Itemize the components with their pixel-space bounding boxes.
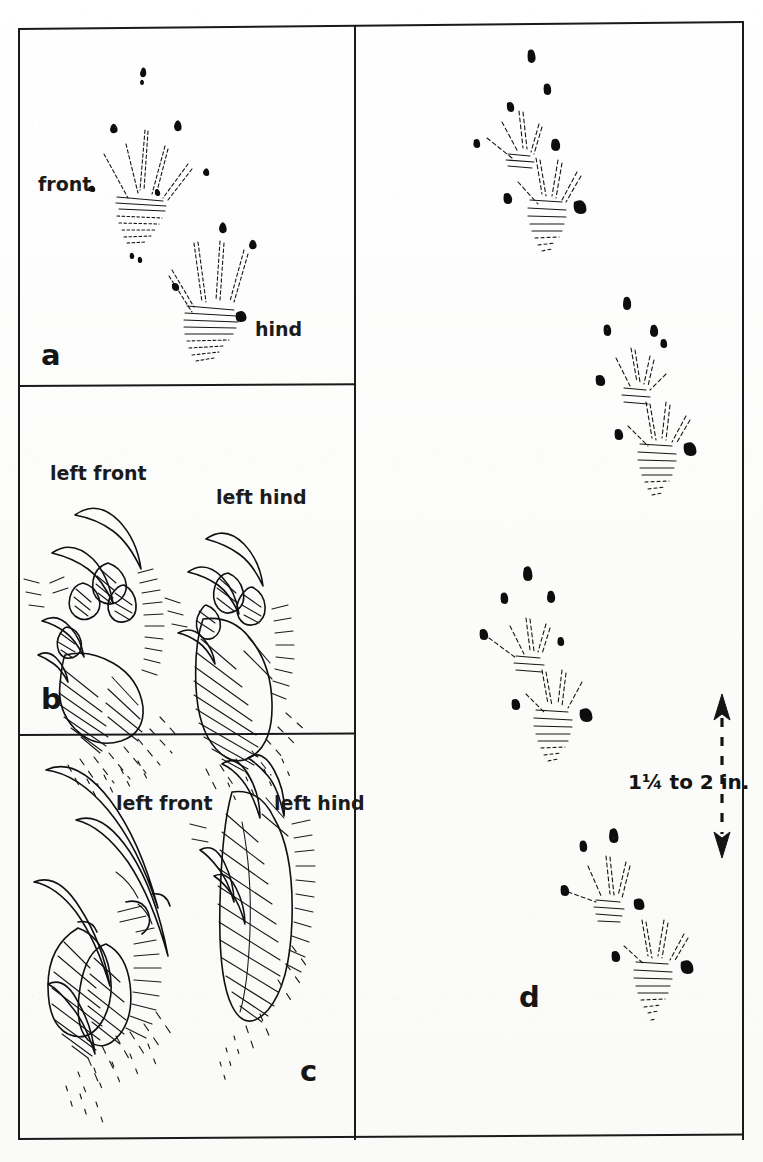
- track-front-2: [596, 297, 668, 404]
- panel-label-c: c: [300, 1054, 317, 1088]
- track-hind-3: [512, 670, 593, 761]
- panel-a: front hind a: [20, 30, 354, 385]
- panel-label-d: d: [519, 980, 540, 1014]
- panel-b: left front left hind b: [20, 387, 354, 734]
- track-label-hind: hind: [255, 318, 302, 340]
- paw-label-left-front-c: left front: [116, 792, 213, 814]
- frame-top-border: [18, 21, 744, 30]
- paw-label-left-front-b: left front: [50, 462, 147, 484]
- track-front-3: [480, 566, 565, 672]
- paw-label-left-hind-b: left hind: [216, 486, 307, 508]
- track-front-1: [473, 50, 560, 168]
- stride-measurement-label: 1¼ to 2 in.: [628, 770, 749, 794]
- track-group-1: [473, 50, 586, 251]
- panel-b-artwork: [20, 387, 354, 734]
- track-hind-2: [615, 402, 697, 495]
- panel-label-a: a: [41, 338, 61, 372]
- panel-d-artwork: [356, 30, 742, 1138]
- figure-frame: front hind a: [18, 26, 744, 1140]
- panel-d: d 1¼ to 2 in.: [356, 30, 742, 1138]
- panel-label-b: b: [41, 682, 62, 716]
- panel-c: left front left hind c: [20, 736, 354, 1138]
- track-group-4: [561, 828, 694, 1020]
- track-label-front: front: [38, 173, 91, 195]
- frame-right-border: [742, 22, 744, 1140]
- left-front-paw-c: [34, 767, 174, 1126]
- paw-label-left-hind-c: left hind: [274, 792, 365, 814]
- track-group-2: [596, 297, 697, 495]
- track-group-3: [480, 566, 593, 761]
- panel-a-artwork: [20, 30, 354, 385]
- track-hind-4: [612, 920, 694, 1020]
- hind-track-impression: [169, 222, 257, 361]
- track-front-4: [561, 828, 645, 922]
- front-track-impression: [88, 67, 209, 263]
- track-hind-1: [504, 158, 587, 251]
